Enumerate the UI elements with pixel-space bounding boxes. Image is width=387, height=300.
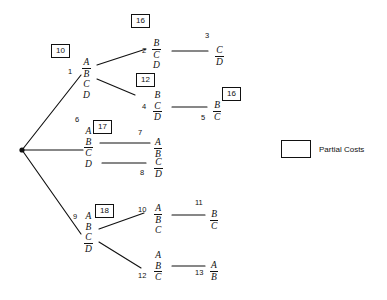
node-1-letter-0: A <box>82 57 91 69</box>
node-4-letter-1: C <box>153 101 162 113</box>
partial-cost-box-icon <box>281 140 311 158</box>
node-11[interactable]: B C <box>210 209 218 231</box>
node-7-letter-0: A <box>154 137 162 149</box>
node-8-letter-0: C <box>154 157 163 169</box>
node-12-letter-2: C <box>154 272 162 283</box>
node-10-letter-0: A <box>154 203 162 215</box>
node-2-index: 2 <box>142 46 146 55</box>
node-9-letter-3: D <box>84 244 93 255</box>
node-6-letter-0: A <box>84 126 93 137</box>
node-1-index: 1 <box>68 67 72 76</box>
node-5-letter-0: B <box>213 100 221 112</box>
node-7-index: 7 <box>138 128 142 137</box>
node-4-letter-0: B <box>153 90 162 101</box>
node-1-letter-3: D <box>82 90 91 101</box>
node-2-letter-0: B <box>152 38 161 50</box>
node-13-letter-0: A <box>210 260 218 272</box>
node-3-index: 3 <box>205 31 209 40</box>
node-2[interactable]: B C D <box>152 38 161 71</box>
node-4-letter-2: D <box>153 112 162 123</box>
branch-and-bound-diagram: A B C D 1 10 B C D 2 16 C D 3 B C D 4 12… <box>0 0 387 300</box>
node-3-letter-1: D <box>215 57 224 68</box>
node-6-letter-1: B <box>84 137 93 149</box>
node-4-cost: 12 <box>136 73 155 87</box>
node-1-letter-1: B <box>82 69 91 80</box>
node-1[interactable]: A B C D <box>82 57 91 100</box>
node-12[interactable]: A B C <box>154 250 162 283</box>
legend-label: Partial Costs <box>319 145 364 154</box>
node-6-letter-2: C <box>84 148 93 159</box>
node-11-letter-0: B <box>210 209 218 221</box>
node-11-letter-1: C <box>210 221 218 232</box>
node-13[interactable]: A B <box>210 260 218 282</box>
node-12-index: 12 <box>138 271 146 280</box>
node-5-index: 5 <box>201 113 205 122</box>
node-9-cost: 18 <box>95 204 114 218</box>
node-3[interactable]: C D <box>215 45 224 67</box>
node-5-letter-1: C <box>213 112 221 123</box>
node-9-index: 9 <box>73 212 77 221</box>
node-9-letter-2: C <box>84 232 93 244</box>
legend: Partial Costs <box>281 140 364 158</box>
node-13-index: 13 <box>195 268 203 277</box>
node-9-letter-0: A <box>84 211 93 222</box>
node-5[interactable]: B C <box>213 100 221 122</box>
node-6-cost: 17 <box>93 120 112 134</box>
node-4[interactable]: B C D <box>153 90 162 123</box>
root-node-dot <box>19 147 24 152</box>
node-10-index: 10 <box>138 205 146 214</box>
node-10-letter-1: B <box>154 215 162 226</box>
node-12-letter-0: A <box>154 250 162 261</box>
edge-9-12 <box>99 242 141 268</box>
node-8-index: 8 <box>140 168 144 177</box>
node-8[interactable]: C D <box>154 157 163 179</box>
node-2-letter-2: D <box>152 60 161 71</box>
edge-1-4 <box>97 79 135 95</box>
node-11-index: 11 <box>195 198 203 207</box>
node-10-letter-2: C <box>154 225 162 236</box>
node-6-index: 6 <box>75 115 79 124</box>
node-9[interactable]: A B C D <box>84 211 93 254</box>
node-2-letter-1: C <box>152 50 161 61</box>
node-1-cost: 10 <box>51 44 70 58</box>
node-9-letter-1: B <box>84 222 93 233</box>
node-1-letter-2: C <box>82 79 91 90</box>
node-10[interactable]: A B C <box>154 203 162 236</box>
edge-root-1 <box>22 75 81 150</box>
node-6-letter-3: D <box>84 159 93 170</box>
edge-1-2 <box>97 49 146 65</box>
node-5-cost: 16 <box>222 87 241 101</box>
node-12-letter-1: B <box>154 261 162 273</box>
node-4-index: 4 <box>142 102 146 111</box>
node-7[interactable]: A B <box>154 137 162 159</box>
node-6[interactable]: A B C D <box>84 126 93 169</box>
node-3-letter-0: C <box>215 45 224 57</box>
node-2-cost: 16 <box>131 14 150 28</box>
edge-root-9 <box>22 150 81 234</box>
node-8-letter-1: D <box>154 169 163 180</box>
node-13-letter-1: B <box>210 272 218 283</box>
